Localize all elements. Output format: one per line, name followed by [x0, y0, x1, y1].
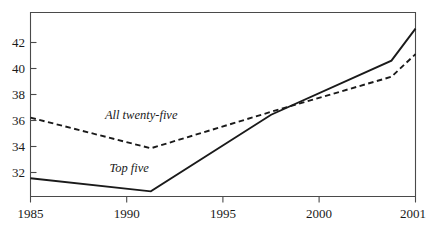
y-axis-label-38: 38	[12, 87, 25, 102]
y-axis-label-32: 32	[12, 165, 25, 180]
x-axis-label-2001: 2001	[400, 206, 426, 221]
annotation-all-twenty-five: All twenty-five	[104, 108, 178, 122]
series-top-five	[31, 29, 416, 192]
line-chart: 42 40 38 36 34 32 1985 1990 1995 2000 20…	[0, 0, 432, 226]
x-axis-ticks	[31, 197, 416, 203]
chart-canvas: 42 40 38 36 34 32 1985 1990 1995 2000 20…	[0, 0, 432, 226]
series-group	[31, 29, 416, 192]
y-axis-tick-labels: 42 40 38 36 34 32	[12, 35, 26, 180]
series-all-twenty-five	[31, 54, 416, 148]
plot-frame	[31, 13, 416, 197]
series-annotations: All twenty-five Top five	[104, 108, 178, 175]
y-axis-label-34: 34	[12, 139, 26, 154]
y-axis-label-40: 40	[12, 61, 25, 76]
x-axis-tick-labels: 1985 1990 1995 2000 2001	[18, 206, 427, 221]
x-axis-label-1995: 1995	[210, 206, 236, 221]
x-axis-label-2000: 2000	[306, 206, 332, 221]
annotation-top-five: Top five	[109, 161, 149, 175]
y-axis-label-42: 42	[12, 35, 25, 50]
y-axis-ticks	[31, 43, 37, 173]
x-axis-label-1990: 1990	[114, 206, 140, 221]
x-axis-label-1985: 1985	[18, 206, 44, 221]
y-axis-label-36: 36	[12, 113, 26, 128]
